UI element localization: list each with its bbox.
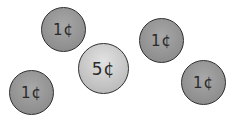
coin-label: 1¢ (151, 32, 172, 50)
penny-coin: 1¢ (181, 60, 226, 105)
coin-label: 1¢ (21, 84, 42, 102)
coin-label: 1¢ (193, 74, 214, 92)
penny-coin: 1¢ (9, 70, 54, 115)
penny-coin: 1¢ (139, 18, 184, 63)
coin-label: 5¢ (92, 59, 116, 79)
coin-label: 1¢ (53, 21, 74, 39)
coin-illustration: 1¢ 5¢ 1¢ 1¢ 1¢ (0, 0, 241, 119)
penny-coin: 1¢ (41, 7, 86, 52)
nickel-coin: 5¢ (78, 43, 129, 94)
